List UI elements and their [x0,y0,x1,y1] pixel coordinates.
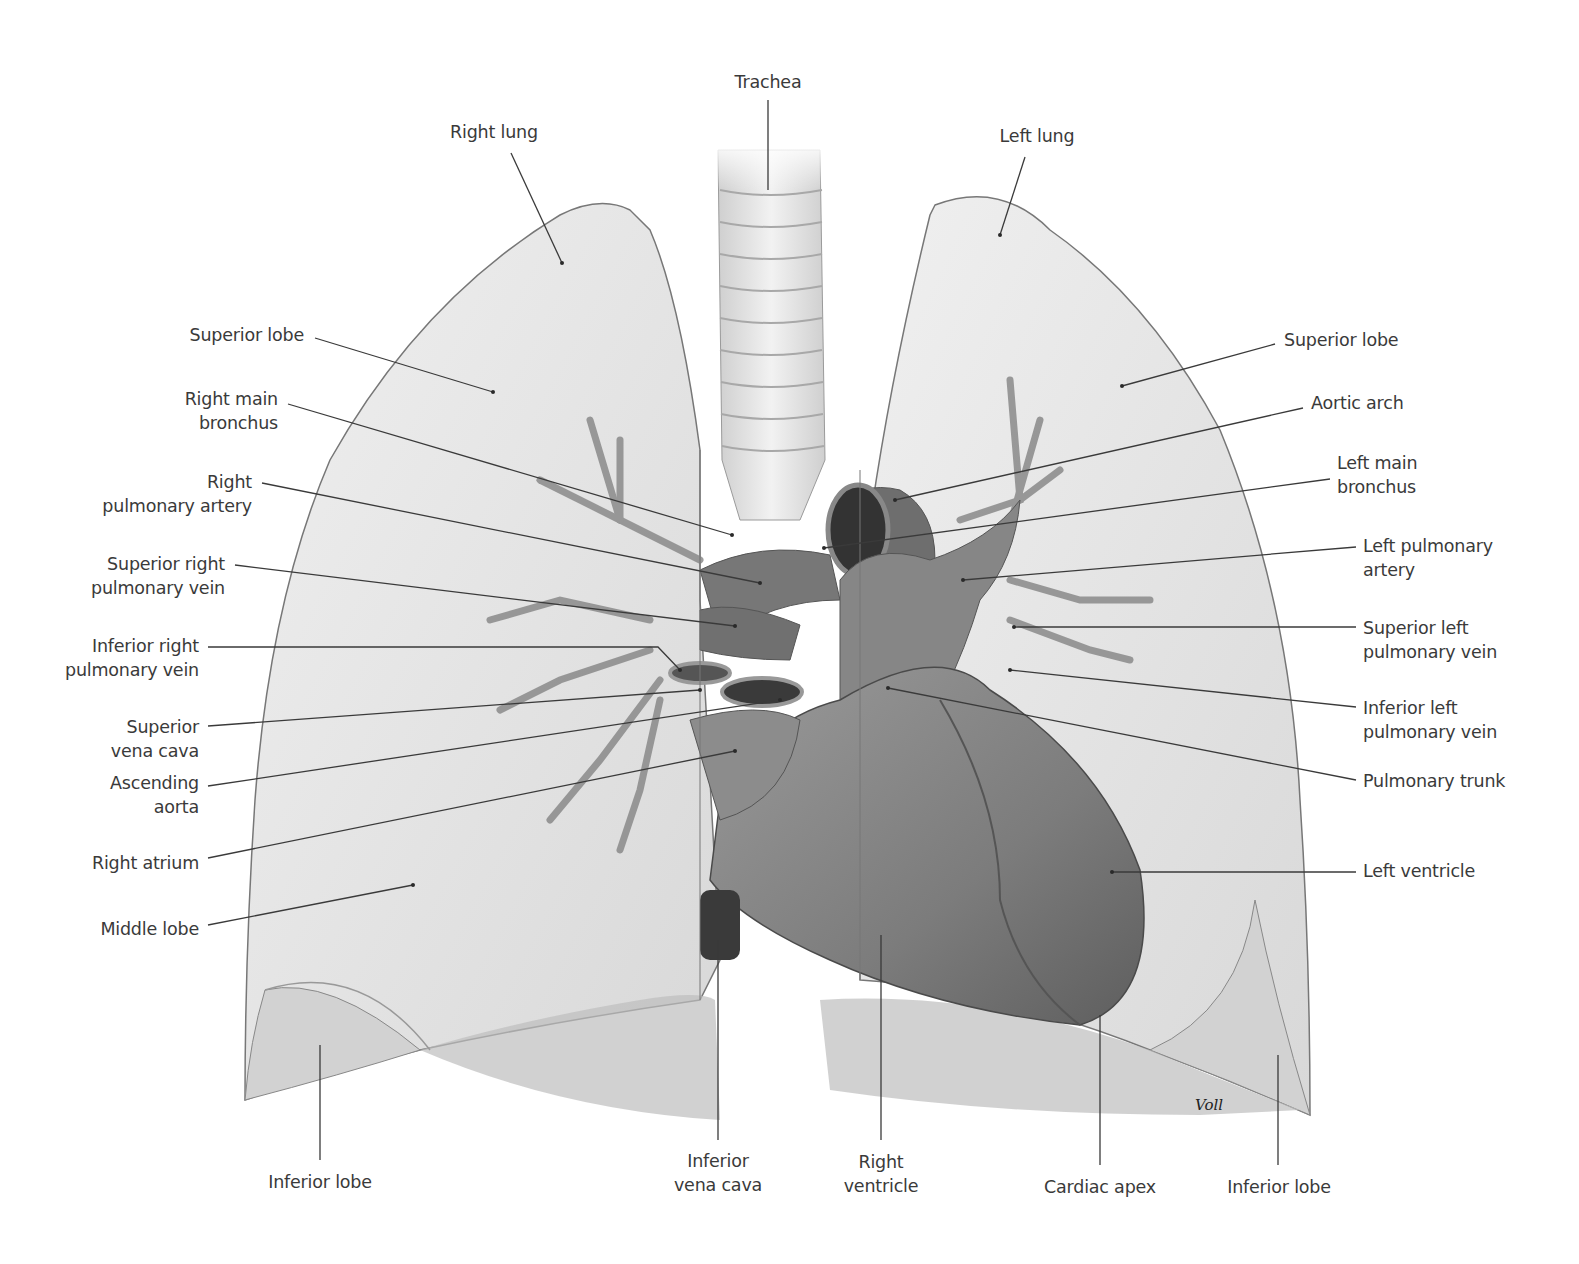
label-right-pulmonary-artery: Right pulmonary artery [102,470,252,518]
trachea-shape [710,140,830,520]
right-lung-shape [245,204,720,1120]
label-aortic-arch: Aortic arch [1311,391,1404,415]
label-superior-left-pulmonary-vein: Superior left pulmonary vein [1363,616,1497,664]
label-left-pulmonary-artery: Left pulmonary artery [1363,534,1493,582]
lung-heart-diagram: Trachea Right lung Left lung Superior lo… [0,0,1579,1264]
label-inferior-left-pulmonary-vein: Inferior left pulmonary vein [1363,696,1497,744]
label-left-main-bronchus: Left main bronchus [1337,451,1417,499]
label-superior-vena-cava: Superior vena cava [111,715,199,763]
label-inferior-right-pulmonary-vein: Inferior right pulmonary vein [65,634,199,682]
label-right-lung: Right lung [450,120,538,144]
label-right-ventricle: Right ventricle [844,1150,919,1198]
label-trachea: Trachea [735,70,802,94]
label-left-superior-lobe: Superior lobe [1284,328,1398,352]
label-superior-right-pulmonary-vein: Superior right pulmonary vein [91,552,225,600]
label-left-ventricle: Left ventricle [1363,859,1475,883]
label-ascending-aorta: Ascending aorta [110,771,199,819]
label-left-inferior-lobe: Inferior lobe [1227,1175,1331,1199]
label-inferior-vena-cava: Inferior vena cava [674,1149,762,1197]
label-right-superior-lobe: Superior lobe [190,323,304,347]
label-right-atrium: Right atrium [92,851,199,875]
label-pulmonary-trunk: Pulmonary trunk [1363,769,1505,793]
label-middle-lobe: Middle lobe [100,917,199,941]
label-cardiac-apex: Cardiac apex [1044,1175,1156,1199]
artist-signature: Voll [1195,1096,1223,1114]
label-right-main-bronchus: Right main bronchus [185,387,278,435]
label-left-lung: Left lung [1000,124,1075,148]
anatomy-illustration [0,0,1579,1264]
label-right-inferior-lobe: Inferior lobe [268,1170,372,1194]
